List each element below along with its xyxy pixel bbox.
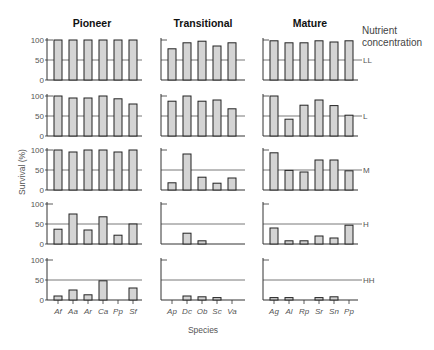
bar-pioneer-H-Af (54, 229, 62, 244)
bar-mature-LL-Sr (315, 41, 323, 80)
bar-pioneer-L-Aa (69, 98, 77, 136)
bar-pioneer-HH-Sf (129, 288, 137, 300)
species-label: Ar (83, 307, 92, 316)
bar-pioneer-LL-Aa (69, 40, 77, 80)
y-tick-label: 50 (35, 112, 44, 121)
bar-mature-H-Al (285, 241, 293, 244)
bar-pioneer-M-Ar (84, 150, 92, 190)
bar-transitional-HH-Ob (198, 297, 206, 300)
bar-pioneer-L-Ar (84, 98, 92, 136)
bar-mature-H-Ag (270, 228, 278, 244)
row-label-L: L (363, 112, 368, 121)
bar-pioneer-HH-Aa (69, 290, 77, 300)
species-label: Dc (182, 307, 192, 316)
bar-transitional-M-Dc (183, 154, 191, 190)
bar-mature-HH-Sr (315, 298, 323, 300)
y-tick-label: 0 (40, 76, 45, 85)
bar-pioneer-LL-Ar (84, 40, 92, 80)
species-label: Ca (98, 307, 109, 316)
bar-pioneer-M-Pp (114, 152, 122, 190)
species-label: Sf (129, 307, 137, 316)
species-label: Sc (212, 307, 221, 316)
bar-mature-HH-Ag (270, 298, 278, 300)
species-label: Va (227, 307, 237, 316)
bar-pioneer-M-Sf (129, 150, 137, 190)
bar-transitional-H-Ob (198, 241, 206, 244)
bar-mature-LL-Sn (330, 42, 338, 80)
bar-pioneer-L-Pp (114, 99, 122, 136)
bar-mature-M-Rp (300, 172, 308, 190)
bar-transitional-M-Va (228, 178, 236, 190)
bar-mature-H-Sr (315, 236, 323, 244)
column-title-transitional: Transitional (174, 17, 233, 29)
bar-mature-M-Al (285, 170, 293, 190)
y-tick-label: 50 (35, 276, 44, 285)
bar-pioneer-HH-Ca (99, 281, 107, 300)
bar-mature-H-Sn (330, 238, 338, 244)
legend-title: Nutrient (362, 25, 397, 36)
bar-mature-H-Rp (300, 241, 308, 244)
bar-transitional-LL-Va (228, 43, 236, 80)
bar-mature-LL-Al (285, 43, 293, 80)
species-label: Sr (315, 307, 323, 316)
chart-canvas: PioneerTransitionalMatureNutrientconcent… (0, 0, 434, 350)
bar-pioneer-L-Ca (99, 96, 107, 136)
bar-mature-M-Sn (330, 160, 338, 190)
y-tick-label: 100 (31, 36, 45, 45)
y-tick-label: 0 (40, 186, 45, 195)
bar-pioneer-H-Sf (129, 224, 137, 244)
bar-pioneer-H-Aa (69, 214, 77, 244)
y-axis-title: Survival (%) (17, 149, 27, 195)
bar-pioneer-H-Ar (84, 230, 92, 244)
bar-transitional-M-Ob (198, 177, 206, 190)
column-title-pioneer: Pioneer (73, 17, 112, 29)
y-tick-label: 0 (40, 240, 45, 249)
bar-pioneer-H-Ca (99, 217, 107, 244)
x-axis-title: Species (188, 325, 218, 335)
bar-pioneer-L-Af (54, 96, 62, 136)
column-title-mature: Mature (293, 17, 328, 29)
bar-mature-L-Al (285, 119, 293, 136)
bar-mature-M-Sr (315, 160, 323, 190)
species-label: Al (284, 307, 292, 316)
bar-transitional-L-Va (228, 109, 236, 136)
bar-mature-H-Pp (345, 225, 353, 244)
bar-mature-M-Ag (270, 153, 278, 190)
bar-transitional-HH-Sc (213, 298, 221, 300)
bar-transitional-LL-Ob (198, 41, 206, 80)
bar-pioneer-HH-Ar (84, 295, 92, 300)
species-label: Sn (329, 307, 339, 316)
bar-mature-L-Sr (315, 100, 323, 136)
y-tick-label: 0 (40, 296, 45, 305)
bar-pioneer-L-Sf (129, 104, 137, 136)
bar-mature-L-Pp (345, 115, 353, 136)
species-label: Ap (166, 307, 177, 316)
row-label-LL: LL (363, 56, 372, 65)
species-label: Ob (197, 307, 208, 316)
bar-transitional-L-Ap (168, 101, 176, 136)
bar-transitional-L-Ob (198, 101, 206, 136)
bar-pioneer-H-Pp (114, 235, 122, 244)
legend-title: concentration (362, 37, 422, 48)
y-tick-label: 50 (35, 166, 44, 175)
bar-pioneer-LL-Sf (129, 40, 137, 80)
bar-mature-L-Sn (330, 106, 338, 136)
y-tick-label: 50 (35, 220, 44, 229)
bar-mature-M-Pp (345, 171, 353, 190)
bar-pioneer-LL-Af (54, 40, 62, 80)
bar-pioneer-M-Aa (69, 152, 77, 190)
y-tick-label: 100 (31, 92, 45, 101)
bar-mature-L-Rp (300, 105, 308, 136)
survival-small-multiples-chart: PioneerTransitionalMatureNutrientconcent… (0, 0, 434, 350)
bar-pioneer-LL-Pp (114, 40, 122, 80)
bar-mature-L-Ag (270, 96, 278, 136)
y-tick-label: 0 (40, 132, 45, 141)
bar-mature-LL-Rp (300, 43, 308, 80)
bar-pioneer-LL-Ca (99, 40, 107, 80)
bar-transitional-H-Dc (183, 233, 191, 244)
bar-transitional-LL-Dc (183, 43, 191, 80)
y-tick-label: 50 (35, 56, 44, 65)
species-label: Rp (299, 307, 310, 316)
bar-mature-HH-Sn (330, 297, 338, 300)
row-label-H: H (363, 220, 369, 229)
